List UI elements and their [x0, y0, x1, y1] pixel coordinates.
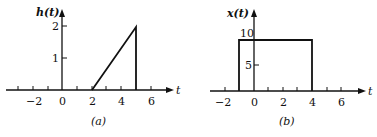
xtick-0: 0 [251, 96, 258, 109]
xtick-neg2: −2 [215, 96, 231, 109]
chart-b: x(t) t 10 5 −2 0 2 4 6 (b) [210, 7, 373, 128]
ytick-1: 1 [52, 52, 59, 65]
ylabel-b: x(t) [226, 7, 249, 20]
ytick-10: 10 [240, 27, 254, 40]
xtick-6: 6 [338, 96, 345, 109]
x-axis-arrow-icon [358, 88, 366, 94]
xtick-6: 6 [148, 95, 155, 108]
xtick-neg2: −2 [26, 95, 42, 108]
xlabel-a: t [176, 84, 181, 97]
y-axis-arrow-icon [59, 9, 65, 17]
xtick-4: 4 [118, 95, 125, 108]
chart-a: h(t) t 2 1 −2 0 2 4 6 (a) [6, 6, 181, 128]
ytick-5: 5 [245, 59, 252, 72]
figure: h(t) t 2 1 −2 0 2 4 6 (a) x(t) t 10 5 −2… [0, 0, 377, 137]
caption-b: (b) [279, 115, 295, 128]
x-axis-arrow-icon [166, 87, 174, 93]
y-axis-arrow-icon [251, 9, 257, 17]
xtick-0: 0 [59, 95, 66, 108]
xtick-4: 4 [309, 96, 316, 109]
xtick-2: 2 [280, 96, 287, 109]
xlabel-b: t [368, 85, 373, 98]
xtick-2: 2 [89, 95, 96, 108]
ytick-2: 2 [52, 20, 59, 33]
ylabel-a: h(t) [36, 6, 60, 19]
signal-h [92, 27, 136, 90]
caption-a: (a) [91, 115, 106, 128]
